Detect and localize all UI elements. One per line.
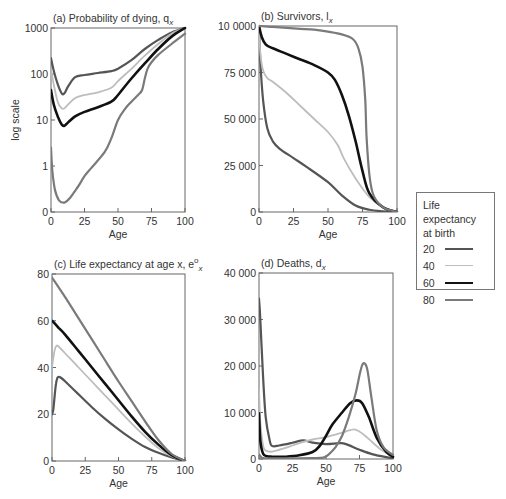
- y-tick-label: 20: [37, 408, 49, 420]
- x-tick-label: 75: [354, 462, 366, 474]
- legend-swatch-40: [445, 265, 473, 266]
- legend-swatch-60: [445, 282, 473, 284]
- y-tick-label: 0: [250, 453, 256, 465]
- x-tick-label: 50: [112, 215, 124, 227]
- plot-frame: [259, 26, 397, 212]
- legend: Life expectancy at birth 20 40 60 80: [416, 192, 495, 290]
- legend-swatch-20: [445, 248, 473, 250]
- x-tick-label: 0: [256, 462, 262, 474]
- y-tick-label: 0: [250, 206, 256, 218]
- chart-title: (c) Life expectancy at age x, eox: [54, 256, 204, 273]
- chart-c: 0255075100020406080Age(c) Life expectanc…: [37, 256, 203, 489]
- legend-swatch-80: [445, 299, 473, 301]
- y-tick-label: 0: [43, 455, 49, 467]
- y-tick-label: 10 0000: [218, 20, 256, 32]
- y-tick-label: 25 000: [224, 160, 256, 172]
- x-tick-label: 75: [146, 215, 158, 227]
- x-tick-label: 0: [48, 215, 54, 227]
- legend-entry-20: 20: [423, 240, 494, 257]
- x-axis-label: Age: [109, 477, 128, 489]
- x-tick-label: 50: [322, 215, 334, 227]
- x-tick-label: 25: [288, 215, 300, 227]
- x-tick-label: 50: [113, 464, 125, 476]
- y-tick-label: 40: [37, 362, 49, 374]
- series-line-e0-60: [259, 26, 397, 212]
- legend-entry-80: 80: [423, 291, 494, 308]
- series-line-e0-60: [52, 321, 185, 461]
- y-tick-label: 75 000: [224, 67, 256, 79]
- x-tick-label: 100: [384, 462, 402, 474]
- x-axis-label: Age: [317, 475, 336, 487]
- x-tick-label: 100: [388, 215, 406, 227]
- series-line-e0-60: [51, 28, 185, 126]
- chart-d: 0255075100010 00020 00030 00040 000Age(d…: [224, 257, 402, 487]
- chart-title: (b) Survivors, lx: [261, 10, 334, 25]
- y-tick-label: 10 000: [224, 407, 256, 419]
- series-line-e0-80: [259, 26, 397, 212]
- y-tick-label: 40 000: [224, 267, 256, 279]
- chart-a: 025507510001101001000Agelog scale(a) Pro…: [9, 12, 194, 240]
- series-line-e0-20: [259, 26, 397, 212]
- y-tick-label: 0: [42, 206, 48, 218]
- series-line-e0-40: [52, 345, 185, 461]
- x-tick-label: 50: [320, 462, 332, 474]
- x-tick-label: 100: [176, 464, 194, 476]
- x-axis-label: Age: [319, 228, 338, 240]
- legend-entry-60: 60: [423, 274, 494, 291]
- y-tick-label: 20 000: [224, 360, 256, 372]
- chart-b: 0255075100025 00050 00075 00010 0000Age(…: [218, 10, 406, 240]
- y-axis-label: log scale: [9, 99, 21, 141]
- x-tick-label: 25: [287, 462, 299, 474]
- y-tick-label: 100: [30, 68, 48, 80]
- x-tick-label: 0: [256, 215, 262, 227]
- y-tick-label: 1: [42, 160, 48, 172]
- plot-frame: [52, 274, 185, 461]
- legend-title-line1: Life expectancy: [423, 198, 494, 226]
- x-tick-label: 0: [49, 464, 55, 476]
- x-tick-label: 100: [176, 215, 194, 227]
- y-tick-label: 80: [37, 268, 49, 280]
- x-tick-label: 25: [79, 215, 91, 227]
- x-tick-label: 75: [146, 464, 158, 476]
- legend-entry-40: 40: [423, 257, 494, 274]
- y-tick-label: 1000: [25, 22, 49, 34]
- chart-title: (a) Probability of dying, qx: [53, 12, 174, 27]
- y-tick-label: 10: [36, 114, 48, 126]
- legend-title-line2: at birth: [423, 226, 494, 240]
- y-tick-label: 60: [37, 315, 49, 327]
- y-tick-label: 30 000: [224, 314, 256, 326]
- x-tick-label: 25: [79, 464, 91, 476]
- x-axis-label: Age: [109, 228, 128, 240]
- series-line-e0-40: [259, 26, 397, 212]
- chart-title: (d) Deaths, dx: [261, 257, 327, 272]
- series-line-e0-80: [52, 278, 185, 462]
- x-tick-label: 75: [357, 215, 369, 227]
- y-tick-label: 50 000: [224, 113, 256, 125]
